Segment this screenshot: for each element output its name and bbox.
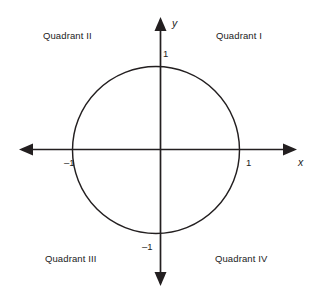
x-axis-left-arrowhead [19,144,33,156]
y-axis-up-arrowhead [155,17,167,31]
x-axis-right-arrowhead [283,144,297,156]
unit-circle-figure: Quadrant II Quadrant I Quadrant III Quad… [0,0,314,301]
quadrant-label-iii: Quadrant III [45,254,96,264]
x-axis-name-label: x [298,157,303,168]
tick-label-y-positive-one: 1 [163,49,168,59]
quadrant-label-i: Quadrant I [216,31,262,41]
quadrant-label-iv: Quadrant IV [215,254,267,264]
y-axis-down-arrowhead [155,272,167,286]
tick-label-y-negative-one: –1 [142,242,153,252]
y-axis-name-label: y [172,18,177,29]
tick-label-x-positive-one: 1 [246,158,251,168]
quadrant-label-ii: Quadrant II [43,31,92,41]
tick-label-x-negative-one: –1 [64,158,75,168]
